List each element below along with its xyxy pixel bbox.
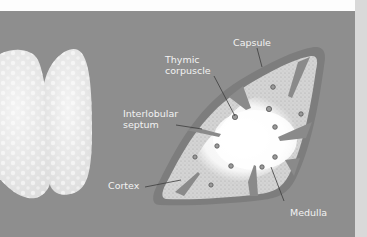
thymus-lobe-right [44, 49, 92, 195]
label-capsule: Capsule [233, 38, 271, 49]
right-margin [355, 0, 367, 237]
diagram-panel: Capsule Thymic corpuscle Interlobular se… [0, 11, 355, 237]
label-cortex: Cortex [108, 181, 139, 192]
label-thymic-corpuscle-line1: Thymic [165, 55, 211, 66]
thymus-lobe-left [0, 50, 52, 199]
label-thymic-corpuscle: Thymic corpuscle [165, 55, 211, 76]
label-medulla: Medulla [290, 208, 327, 219]
label-interlobular-septum: Interlobular septum [123, 109, 178, 130]
label-interlobular-line2: septum [123, 120, 178, 131]
capsule-leader [257, 48, 262, 67]
label-thymic-corpuscle-line2: corpuscle [165, 66, 211, 77]
label-interlobular-line1: Interlobular [123, 109, 178, 120]
top-margin [0, 0, 355, 11]
